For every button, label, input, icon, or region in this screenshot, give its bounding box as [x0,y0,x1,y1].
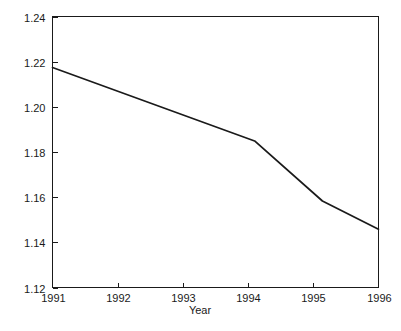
x-tick-label: 1993 [171,292,195,304]
data-series-group [53,68,379,230]
x-axis-title: Year [189,304,212,316]
y-tick-label: 1.24 [24,12,45,24]
axis-frame-path [53,17,379,288]
plot-frame [53,17,379,288]
y-tick-label: 1.16 [24,192,45,204]
x-tick-label: 1996 [367,292,391,304]
y-tick-label: 1.18 [24,147,45,159]
y-tick-label: 1.14 [24,237,45,249]
x-tick-label: 1994 [236,292,260,304]
chart-container: 1.121.141.161.181.201.221.24 19911992199… [0,0,401,331]
y-axis-tick-labels: 1.121.141.161.181.201.221.24 [24,12,45,295]
x-axis-ticks [119,283,314,288]
data-line-value [53,68,379,230]
x-tick-label: 1995 [301,292,325,304]
line-chart: 1.121.141.161.181.201.221.24 19911992199… [0,0,401,331]
x-tick-label: 1992 [106,292,130,304]
x-tick-label: 1991 [41,292,65,304]
y-axis-ticks [53,18,58,289]
y-tick-label: 1.20 [24,102,45,114]
y-tick-label: 1.22 [24,57,45,69]
x-axis-tick-labels: 199119921993199419951996 [41,292,391,304]
